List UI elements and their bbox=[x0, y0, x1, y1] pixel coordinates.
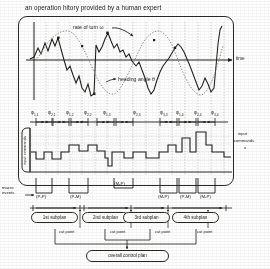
subplan-timeline bbox=[30, 205, 232, 211]
phi-sub: 1,3 bbox=[106, 113, 111, 117]
phi-sub: 2,3 bbox=[136, 113, 141, 117]
macro-event-4: (P-M) bbox=[180, 194, 191, 199]
input-commands-label-line2: commands bbox=[234, 138, 254, 143]
phi-marker-7: φ1,4 bbox=[176, 110, 184, 117]
input-commands-band-label: input commands bbox=[20, 131, 29, 171]
input-command-square-wave bbox=[31, 132, 231, 166]
subplan-1[interactable]: 1st subplan bbox=[31, 212, 78, 223]
phi-sub: 3,3 bbox=[163, 113, 168, 117]
phi-marker-4: φ1,3 bbox=[103, 110, 111, 117]
phi-sub: 1,2 bbox=[69, 113, 74, 117]
heading-angle-label: heading angle θ bbox=[118, 76, 155, 82]
phi-marker-3: φ2,2 bbox=[84, 110, 92, 117]
phi-sub: 2,4 bbox=[197, 113, 202, 117]
phi-sub: 1,1 bbox=[34, 113, 39, 117]
diagram-vector-layer bbox=[0, 0, 270, 269]
rate-of-turn-label: rate of turn ω bbox=[73, 24, 104, 30]
figure-root: an operation hitory provided by a human … bbox=[0, 0, 270, 269]
macro-events-label-line2: events bbox=[2, 190, 32, 195]
cut-point-2: cut point bbox=[155, 229, 170, 234]
macro-events-label: macro events bbox=[2, 185, 32, 196]
phi-sub: 3,4 bbox=[214, 113, 219, 117]
macro-event-brackets bbox=[36, 178, 215, 193]
curve-markers bbox=[57, 32, 176, 95]
phi-marker-6: φ3,3 bbox=[160, 110, 168, 117]
phi-marker-2: φ1,2 bbox=[66, 110, 74, 117]
phi-sub: 2,1 bbox=[51, 113, 56, 117]
macro-event-3: (M-P) bbox=[158, 194, 169, 199]
theta-leader bbox=[106, 79, 116, 82]
phi-marker-1: φ2,1 bbox=[48, 110, 56, 117]
subplan-3[interactable]: 3rd subplan bbox=[123, 212, 170, 223]
phi-marker-0: φ1,1 bbox=[31, 110, 39, 117]
overall-control-plan[interactable]: overall control plan bbox=[86, 250, 169, 262]
phi-marker-9: φ3,4 bbox=[211, 110, 219, 117]
heading-angle-curve bbox=[33, 31, 223, 95]
omega-leader bbox=[112, 28, 133, 36]
rate-of-turn-curve bbox=[30, 26, 222, 96]
macro-event-5: (M-P) bbox=[200, 194, 211, 199]
phi-sub: 1,4 bbox=[179, 113, 184, 117]
phi-sub: 2,2 bbox=[87, 113, 92, 117]
macro-event-2: (M-P) bbox=[114, 181, 125, 186]
macro-event-1: (P-M) bbox=[70, 194, 81, 199]
input-commands-label-line3: u bbox=[244, 145, 246, 150]
command-band-frame bbox=[22, 128, 232, 172]
macro-event-0: (P-P) bbox=[36, 194, 46, 199]
cut-point-0: cut point bbox=[59, 229, 74, 234]
plan-tree-connectors bbox=[55, 229, 196, 249]
phi-marker-5: φ2,3 bbox=[133, 110, 141, 117]
subplan-4[interactable]: 4th subplan bbox=[172, 212, 219, 223]
cut-point-3: cut point bbox=[197, 229, 212, 234]
vertical-grid-lines bbox=[46, 22, 224, 176]
phi-marker-8: φ2,4 bbox=[194, 110, 202, 117]
time-axis-label: time bbox=[236, 56, 245, 61]
input-commands-label-line1: input bbox=[238, 131, 247, 136]
subplan-2[interactable]: 2nd subplan bbox=[82, 212, 129, 223]
cut-point-1: cut point bbox=[110, 229, 125, 234]
